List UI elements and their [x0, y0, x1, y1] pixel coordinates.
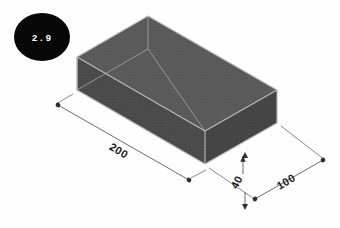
- dimension-height-arrowhead-down: [242, 204, 248, 210]
- dimension-length-label: 200: [107, 140, 130, 160]
- dimension-height-arrowhead-up: [242, 152, 248, 158]
- dimension-width-label: 100: [274, 171, 297, 191]
- dimension-height-label: 40: [228, 173, 245, 190]
- isometric-drawing: 200 100 40 2.9: [0, 0, 340, 228]
- step-badge-label: 2.9: [32, 33, 53, 44]
- step-badge[interactable]: 2.9: [14, 13, 70, 61]
- drawing-canvas: 200 100 40 2.9: [0, 0, 340, 228]
- block-solid: [77, 16, 277, 164]
- dimension-height: 40: [228, 152, 248, 210]
